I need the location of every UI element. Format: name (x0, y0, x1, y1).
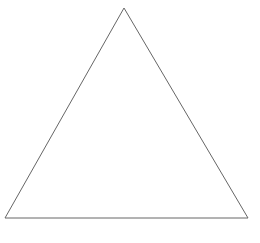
canvas-background (0, 0, 260, 243)
figure-canvas (0, 0, 260, 243)
triangle-figure-svg (0, 0, 260, 243)
